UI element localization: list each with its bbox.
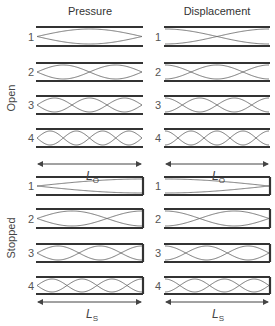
mode-number: 4 (155, 132, 161, 144)
tube-stopped-pressure-mode-4 (36, 277, 143, 294)
tube-stopped-displacement-mode-3 (164, 244, 270, 262)
mode-number: 2 (28, 66, 34, 78)
tube-stopped-displacement-mode-2 (164, 209, 270, 228)
mode-number: 2 (155, 213, 161, 225)
tube-open-displacement-mode-1 (164, 27, 270, 46)
standing-wave-diagram: Pressure Displacement Open Stopped 11223… (0, 0, 275, 326)
tube-open-displacement-mode-3 (164, 96, 270, 114)
length-label-stopped-displacement: LS (212, 307, 224, 323)
length-label-open-pressure: LO (86, 169, 99, 185)
tube-open-pressure-mode-3 (36, 96, 143, 114)
tube-open-pressure-mode-2 (36, 63, 143, 81)
mode-number: 4 (28, 132, 34, 144)
mode-number: 2 (155, 66, 161, 78)
tube-open-pressure-mode-4 (36, 129, 143, 147)
mode-number: 2 (28, 213, 34, 225)
tube-stopped-displacement-mode-4 (164, 277, 270, 294)
mode-number: 4 (28, 280, 34, 292)
group-label-open: Open (5, 85, 17, 112)
mode-number: 3 (155, 247, 161, 259)
mode-number: 1 (155, 31, 161, 43)
mode-number: 1 (28, 31, 34, 43)
mode-number: 3 (28, 247, 34, 259)
mode-number: 4 (155, 280, 161, 292)
tubes: 1122334411223344 (28, 27, 270, 294)
tube-open-displacement-mode-2 (164, 63, 270, 81)
length-label-stopped-pressure: LS (86, 307, 98, 323)
column-title-pressure: Pressure (68, 5, 112, 17)
mode-number: 3 (155, 99, 161, 111)
tube-open-pressure-mode-1 (36, 27, 143, 46)
tube-stopped-pressure-mode-2 (36, 209, 143, 228)
mode-number: 3 (28, 99, 34, 111)
tube-open-displacement-mode-4 (164, 129, 270, 147)
column-title-displacement: Displacement (184, 5, 251, 17)
mode-number: 1 (155, 180, 161, 192)
length-label-open-displacement: LO (212, 169, 225, 185)
tube-stopped-pressure-mode-3 (36, 244, 143, 262)
mode-number: 1 (28, 180, 34, 192)
group-label-stopped: Stopped (5, 218, 17, 259)
